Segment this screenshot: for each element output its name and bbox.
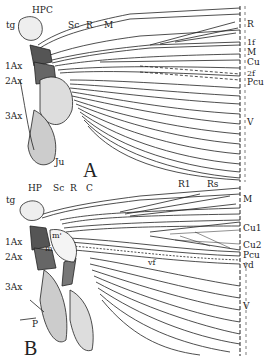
label-m-a: M	[104, 21, 113, 30]
label-tg-b: tg	[6, 196, 15, 205]
label-3ax-a: 3Ax	[5, 112, 22, 121]
label-cu-a: Cu	[247, 58, 260, 67]
label-1f-a: 1f	[247, 38, 255, 47]
label-2ax-b: 2Ax	[5, 253, 22, 262]
label-hp-b: HP	[28, 184, 42, 193]
label-m-right-a: M	[247, 48, 256, 57]
label-vf-b: vf	[148, 258, 155, 267]
label-cu1-b: Cu1	[243, 224, 261, 233]
label-m-b: m	[45, 244, 53, 253]
label-hp-a: HP	[32, 6, 46, 15]
panel-b-axillary-region	[20, 201, 93, 351]
label-v-a: V	[247, 118, 254, 127]
label-1ax-b: 1Ax	[5, 238, 22, 247]
label-m-prime-b: m'	[52, 231, 62, 240]
label-ju-a: Ju	[55, 158, 64, 167]
label-m-right-b: M	[243, 195, 252, 204]
label-rs-b: Rs	[207, 180, 218, 189]
label-c-b: C	[86, 184, 93, 193]
label-sc-a: Sc	[68, 21, 79, 30]
panel-label-a: A	[83, 160, 97, 180]
label-pcu-b: Pcu	[243, 251, 260, 260]
label-r-right-a: R	[247, 20, 254, 29]
label-sc-b: Sc	[53, 184, 64, 193]
label-3ax-b: 3Ax	[5, 283, 22, 292]
label-pcu-a: Pcu	[247, 78, 264, 87]
label-1ax-a: 1Ax	[5, 62, 22, 71]
panel-label-b: B	[24, 338, 37, 358]
label-tg-a: tg	[6, 21, 15, 30]
label-c-a: C	[46, 6, 53, 15]
label-r1-b: R1	[178, 180, 191, 189]
wing-venation-diagram	[0, 0, 265, 361]
label-cu2-b: Cu2	[243, 241, 261, 250]
label-r-a: R	[86, 21, 93, 30]
label-vd-b: vd	[243, 261, 254, 270]
label-v-b: V	[243, 302, 250, 311]
label-p-b: P	[32, 320, 38, 329]
label-r-b: R	[70, 184, 77, 193]
panel-a-axillary-region	[18, 17, 72, 165]
label-2ax-a: 2Ax	[5, 77, 22, 86]
